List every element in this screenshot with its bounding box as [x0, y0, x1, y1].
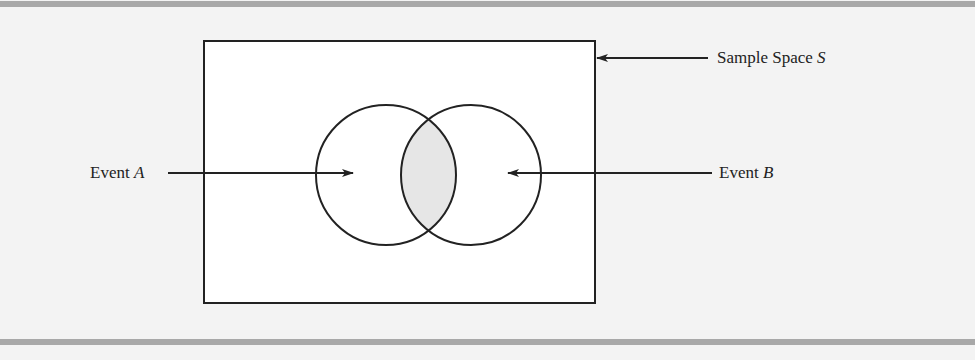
venn-diagram [0, 0, 975, 360]
event-b-label: Event B [719, 163, 773, 183]
sample-space-label: Sample Space S [717, 48, 826, 68]
event-a-label: Event A [90, 163, 144, 183]
